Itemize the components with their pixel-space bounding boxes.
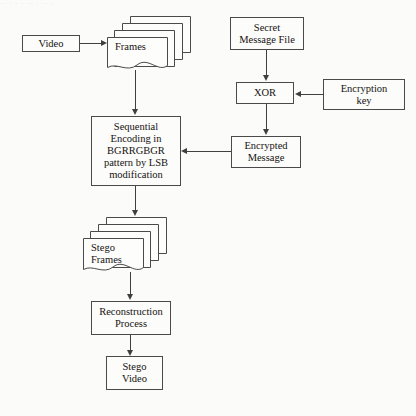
node-encoding-label-line1: Sequential — [114, 121, 158, 132]
edge-frames-to-encoding-line — [135, 70, 136, 110]
edge-xor-to-encrypted-arrowhead — [263, 129, 269, 135]
edge-reconstruction-to-stego-video-line — [130, 335, 131, 351]
edge-encoding-to-stego-frames-line — [135, 186, 136, 211]
node-encoding-label-line3: BGRRGBGR — [107, 145, 165, 156]
node-video-label: Video — [36, 38, 65, 50]
node-stego-video-label: Stego Video — [120, 361, 149, 385]
node-stego-video-label-line2: Video — [122, 373, 147, 384]
node-encrypted-message: Encrypted Message — [231, 136, 301, 168]
node-encoding-label-line4: pattern by LSB — [104, 157, 168, 168]
edge-stego-frames-to-reconstruction-line — [130, 272, 131, 295]
node-encoding-label-line2: Encoding in — [110, 133, 161, 144]
node-encryption-key-label: Encryption key — [339, 83, 390, 107]
edge-video-to-frames-line — [80, 43, 101, 44]
node-reconstruction-process-label: Reconstruction Process — [97, 306, 165, 330]
node-encryption-key: Encryption key — [323, 79, 405, 110]
flowchart-diagram: ·· · · · ·· · ·· · Video Frames Secret — [0, 0, 416, 416]
edge-secret-to-xor-arrowhead — [263, 75, 269, 81]
node-encrypted-message-label-line1: Encrypted — [244, 140, 287, 151]
node-encoding-label-line5: modification — [109, 169, 163, 180]
node-secret-message-file-label-line1: Secret — [254, 22, 280, 33]
edge-encrypted-to-encoding-line — [187, 151, 231, 152]
node-xor-label: XOR — [252, 87, 278, 99]
node-video: Video — [22, 35, 80, 52]
node-encryption-key-label-line1: Encryption — [341, 83, 388, 94]
node-secret-message-file-label: Secret Message File — [237, 22, 297, 46]
node-xor: XOR — [236, 82, 294, 104]
node-frames: Frames — [106, 15, 192, 77]
node-encryption-key-label-line2: key — [356, 95, 371, 106]
edge-encrypted-to-encoding-arrowhead — [181, 148, 187, 154]
edge-secret-to-xor-line — [266, 50, 267, 76]
node-stego-video: Stego Video — [106, 356, 163, 390]
node-reconstruction-process-label-line1: Reconstruction — [99, 306, 163, 317]
edge-key-to-xor-line — [301, 94, 324, 95]
node-encrypted-message-label-line2: Message — [248, 152, 285, 163]
node-frames-label: Frames — [115, 41, 167, 53]
node-reconstruction-process-label-line2: Process — [115, 318, 147, 329]
node-stego-frames-label-line1: Stego — [91, 242, 115, 253]
cut-off-caption-strip: ·· · · · ·· · ·· · — [0, 0, 416, 10]
node-encoding-label: Sequential Encoding in BGRRGBGR pattern … — [102, 121, 170, 181]
edge-frames-to-encoding-arrowhead — [132, 109, 138, 115]
node-secret-message-file: Secret Message File — [230, 17, 304, 50]
edge-xor-to-encrypted-line — [266, 104, 267, 130]
node-stego-frames-label-line2: Frames — [91, 254, 122, 265]
edge-stego-frames-to-reconstruction-arrowhead — [127, 294, 133, 300]
node-reconstruction-process: Reconstruction Process — [91, 301, 171, 335]
node-stego-frames: Stego Frames — [82, 216, 168, 280]
edge-key-to-xor-arrowhead — [295, 91, 301, 97]
node-stego-frames-label: Stego Frames — [91, 242, 145, 266]
node-encoding: Sequential Encoding in BGRRGBGR pattern … — [91, 116, 181, 186]
node-frames-label-line1: Frames — [115, 41, 146, 52]
node-stego-video-label-line1: Stego — [123, 361, 147, 372]
node-encrypted-message-label: Encrypted Message — [242, 140, 289, 164]
node-secret-message-file-label-line2: Message File — [239, 34, 295, 45]
